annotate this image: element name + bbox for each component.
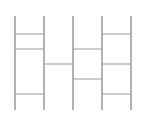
ladder-svg [0,0,141,118]
ladder-diagram [0,0,141,118]
